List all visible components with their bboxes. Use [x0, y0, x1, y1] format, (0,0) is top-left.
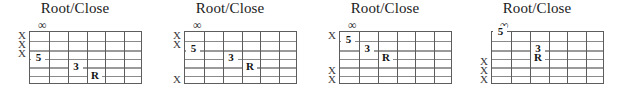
mute-marker-string-3: X	[17, 48, 27, 59]
note-marker-root: R	[531, 52, 545, 63]
open-string-infinity-icon: ∞	[38, 19, 47, 31]
open-string-infinity-icon: ∞	[193, 19, 202, 31]
chord-diagram-title: Root/Close	[0, 0, 150, 17]
chord-diagram-3: Root/Close∞XXX53R	[310, 0, 460, 100]
fret-line-4	[567, 32, 568, 83]
fret-line-4	[105, 32, 106, 83]
note-marker-root: R	[379, 52, 393, 63]
fret-line-3	[397, 32, 398, 83]
mute-marker-string-6: X	[479, 74, 489, 85]
mute-marker-string-2: X	[172, 39, 182, 50]
fret-line-3	[242, 32, 243, 83]
chord-diagram-title: Root/Close	[310, 0, 460, 17]
note-marker-root: R	[243, 61, 257, 72]
fret-line-1	[204, 32, 205, 83]
note-marker-interval-3: 3	[69, 61, 83, 72]
fret-line-4	[260, 32, 261, 83]
mute-marker-string-6: X	[327, 74, 337, 85]
chord-diagram-2: Root/Close∞XXX53R	[155, 0, 305, 100]
fret-line-5	[586, 32, 587, 83]
note-marker-interval-5: 5	[493, 26, 507, 37]
chord-diagram-title: Root/Close	[462, 0, 612, 17]
chord-diagram-sheet: Root/Close∞XXX53RRoot/Close∞XXX53RRoot/C…	[0, 0, 618, 100]
fret-line-1	[511, 32, 512, 83]
fretboard-grid	[491, 31, 604, 84]
mute-marker-string-1: X	[327, 30, 337, 41]
note-marker-interval-5: 5	[186, 43, 200, 54]
note-marker-interval-5: 5	[341, 34, 355, 45]
note-marker-interval-3: 3	[224, 52, 238, 63]
fret-line-4	[415, 32, 416, 83]
fret-line-3	[549, 32, 550, 83]
note-marker-interval-3: 3	[360, 43, 374, 54]
fret-line-2	[68, 32, 69, 83]
fretboard-grid	[29, 31, 142, 84]
fret-line-1	[49, 32, 50, 83]
chord-diagram-4: Root/Close∞XXX53R	[462, 0, 612, 100]
fret-line-5	[434, 32, 435, 83]
fret-line-5	[124, 32, 125, 83]
mute-marker-string-6: X	[172, 74, 182, 85]
note-marker-root: R	[88, 70, 102, 81]
note-marker-interval-5: 5	[31, 52, 45, 63]
fret-line-5	[279, 32, 280, 83]
open-string-infinity-icon: ∞	[348, 19, 357, 31]
fretboard-grid	[339, 31, 452, 84]
fretboard-grid	[184, 31, 297, 84]
chord-diagram-title: Root/Close	[155, 0, 305, 17]
chord-diagram-1: Root/Close∞XXX53R	[0, 0, 150, 100]
fret-line-1	[359, 32, 360, 83]
